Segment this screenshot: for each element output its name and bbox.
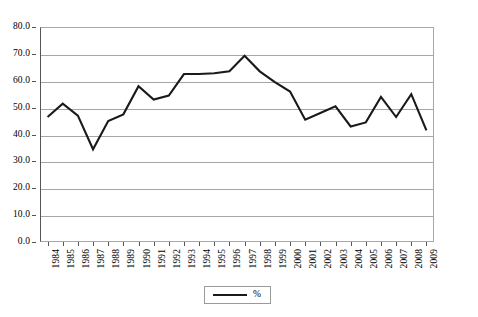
x-tick-label: 2007 (400, 249, 410, 268)
x-tick-mark (108, 242, 109, 246)
x-tick-mark (229, 242, 230, 246)
y-tick-mark (32, 108, 36, 109)
x-tick-mark (184, 242, 185, 246)
x-tick-mark (78, 242, 79, 246)
x-tick-label: 2004 (355, 249, 365, 268)
x-tick-label: 2002 (324, 249, 334, 268)
x-tick-mark (214, 242, 215, 246)
x-tick-mark (123, 242, 124, 246)
x-tick-mark (93, 242, 94, 246)
x-tick-mark (245, 242, 246, 246)
x-tick-label: 2003 (340, 249, 350, 268)
x-tick-mark (199, 242, 200, 246)
x-tick-mark (275, 242, 276, 246)
x-tick-mark (154, 242, 155, 246)
y-tick-label: 0.0 (18, 237, 30, 247)
y-tick-label: 50.0 (13, 103, 30, 113)
x-tick-label: 1992 (173, 249, 183, 268)
x-tick-mark (351, 242, 352, 246)
figure: 0.010.020.030.040.050.060.070.080.0 1984… (0, 0, 478, 317)
legend-line-swatch (213, 294, 247, 296)
legend-label: % (253, 290, 261, 300)
x-tick-label: 1997 (249, 249, 259, 268)
x-tick-label: 1998 (264, 249, 274, 268)
x-tick-label: 1996 (233, 249, 243, 268)
x-tick-label: 1988 (112, 249, 122, 268)
x-tick-mark (381, 242, 382, 246)
chart-legend: % (204, 286, 271, 304)
x-tick-label: 1999 (279, 249, 289, 268)
x-tick-label: 1986 (82, 249, 92, 268)
x-tick-label: 2006 (385, 249, 395, 268)
y-tick-mark (32, 54, 36, 55)
x-tick-mark (169, 242, 170, 246)
x-tick-mark (290, 242, 291, 246)
y-tick-mark (32, 27, 36, 28)
x-tick-mark (63, 242, 64, 246)
y-tick-label: 70.0 (13, 49, 30, 59)
x-tick-label: 1990 (143, 249, 153, 268)
x-tick-label: 2000 (294, 249, 304, 268)
y-tick-label: 10.0 (13, 210, 30, 220)
x-tick-mark (305, 242, 306, 246)
x-tick-label: 1995 (218, 249, 228, 268)
y-tick-mark (32, 188, 36, 189)
x-tick-mark (48, 242, 49, 246)
x-axis: 1984198519861987198819891990199119921993… (40, 242, 434, 290)
x-tick-label: 2008 (415, 249, 425, 268)
x-tick-mark (396, 242, 397, 246)
chart-plot-area (40, 27, 434, 242)
y-tick-label: 20.0 (13, 184, 30, 194)
y-axis: 0.010.020.030.040.050.060.070.080.0 (0, 27, 36, 242)
y-tick-mark (32, 161, 36, 162)
series-line-chart (40, 27, 434, 242)
y-tick-mark (32, 242, 36, 243)
x-tick-label: 1993 (188, 249, 198, 268)
x-tick-mark (426, 242, 427, 246)
x-tick-label: 2005 (370, 249, 380, 268)
y-tick-label: 40.0 (13, 130, 30, 140)
x-tick-label: 1991 (158, 249, 168, 268)
y-tick-mark (32, 135, 36, 136)
x-tick-label: 2001 (309, 249, 319, 268)
series-polyline (48, 56, 427, 150)
y-tick-mark (32, 81, 36, 82)
y-tick-mark (32, 215, 36, 216)
x-tick-label: 1994 (203, 249, 213, 268)
y-tick-label: 60.0 (13, 76, 30, 86)
x-tick-mark (336, 242, 337, 246)
x-tick-mark (366, 242, 367, 246)
y-tick-label: 30.0 (13, 157, 30, 167)
x-tick-label: 1984 (52, 249, 62, 268)
x-tick-label: 1985 (67, 249, 77, 268)
x-tick-label: 2009 (430, 249, 440, 268)
x-tick-label: 1989 (127, 249, 137, 268)
x-tick-mark (411, 242, 412, 246)
x-tick-mark (260, 242, 261, 246)
x-tick-mark (139, 242, 140, 246)
x-tick-label: 1987 (97, 249, 107, 268)
x-tick-mark (320, 242, 321, 246)
y-tick-label: 80.0 (13, 22, 30, 32)
